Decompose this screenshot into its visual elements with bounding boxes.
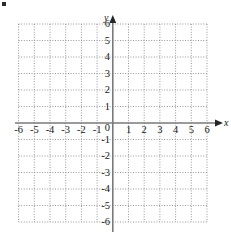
x-tick-label--5: -5 bbox=[30, 125, 39, 135]
origin-tick-label: 0 bbox=[105, 122, 110, 133]
x-tick-label--1: -1 bbox=[93, 125, 102, 135]
y-tick-label--6: -6 bbox=[101, 217, 110, 227]
y-tick-label-5: 5 bbox=[105, 36, 110, 46]
x-tick-label--6: -6 bbox=[14, 125, 23, 135]
x-axis-label: x bbox=[224, 117, 228, 128]
y-tick-label--3: -3 bbox=[101, 168, 110, 178]
y-tick-label-2: 2 bbox=[105, 85, 110, 95]
x-tick-label-1: 1 bbox=[126, 125, 131, 135]
x-tick-label-3: 3 bbox=[157, 125, 162, 135]
y-tick-label--1: -1 bbox=[101, 135, 110, 145]
x-tick-label-5: 5 bbox=[189, 125, 194, 135]
coordinate-plane-svg bbox=[0, 0, 231, 238]
y-tick-label-3: 3 bbox=[105, 69, 110, 79]
x-tick-label--2: -2 bbox=[77, 125, 86, 135]
x-tick-label--3: -3 bbox=[61, 125, 70, 135]
coordinate-grid-figure: x y 0 -6 -5 -4 -3 -2 -1 1 2 3 4 5 6 6 5 … bbox=[0, 0, 231, 238]
x-tick-label--4: -4 bbox=[46, 125, 55, 135]
y-tick-label-1: 1 bbox=[105, 102, 110, 112]
x-tick-label-2: 2 bbox=[142, 125, 147, 135]
x-tick-label-4: 4 bbox=[173, 125, 178, 135]
y-tick-label--2: -2 bbox=[101, 151, 110, 161]
y-tick-label-4: 4 bbox=[105, 52, 110, 62]
x-tick-label-6: 6 bbox=[204, 125, 209, 135]
y-tick-label--4: -4 bbox=[101, 184, 110, 194]
y-tick-label--5: -5 bbox=[101, 201, 110, 211]
y-tick-label-6: 6 bbox=[105, 19, 110, 29]
